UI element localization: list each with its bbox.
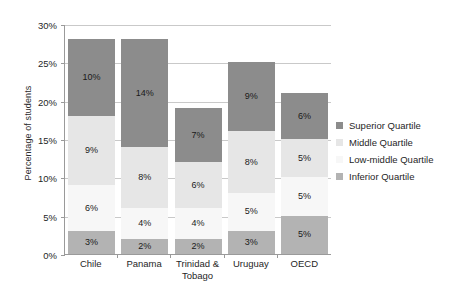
legend-label: Inferior Quartile [349,171,414,182]
legend-item[interactable]: Superior Quartile [336,117,433,134]
bar-segment-value-label: 10% [83,73,101,82]
bar-segment[interactable]: 4% [175,208,222,239]
x-axis-label-panama: Panama [117,258,170,281]
bar-stack: 2%4%8%14% [121,39,168,254]
bar-group[interactable]: 3%5%8%9% [225,25,278,254]
bar-segment-value-label: 5% [298,230,311,239]
x-axis-labels: ChilePanamaTrinidad &TobagoUruguayOECD [64,258,331,281]
bar-group[interactable]: 2%4%8%14% [118,25,171,254]
legend-swatch-icon [336,173,343,180]
x-axis-label-uruguay: Uruguay [224,258,277,281]
bars-layer: 3%6%9%10%2%4%8%14%2%4%6%7%3%5%8%9%5%5%5%… [65,25,331,254]
y-axis-tick [61,255,65,256]
bar-segment-value-label: 3% [85,238,98,247]
bar-segment[interactable]: 9% [68,116,115,185]
y-axis-tick-label: 15% [38,135,57,146]
bar-segment-value-label: 4% [191,219,204,228]
bar-segment[interactable]: 5% [281,216,328,254]
bar-segment-value-label: 2% [191,242,204,251]
bar-segment-value-label: 2% [138,242,151,251]
x-axis-label-line: Panama [117,258,170,270]
y-axis-tick-label: 0% [43,250,57,261]
bar-segment[interactable]: 14% [121,39,168,146]
plot-area: 0%5%10%15%20%25%30% 3%6%9%10%2%4%8%14%2%… [64,25,331,255]
bar-segment-value-label: 9% [245,92,258,101]
stacked-bar-chart: Percentage of students 0%5%10%15%20%25%3… [0,0,463,299]
legend-item[interactable]: Inferior Quartile [336,168,433,185]
y-axis-tick-label: 30% [38,20,57,31]
bar-segment-value-label: 6% [191,181,204,190]
bar-segment-value-label: 4% [138,219,151,228]
y-axis-tick-label: 20% [38,96,57,107]
legend-item[interactable]: Low-middle Quartile [336,151,433,168]
x-axis-label-oecd: OECD [278,258,331,281]
bar-segment[interactable]: 8% [228,131,275,192]
bar-segment-value-label: 5% [298,154,311,163]
legend-label: Low-middle Quartile [349,154,433,165]
bar-segment-value-label: 9% [85,146,98,155]
bar-segment[interactable]: 6% [175,162,222,208]
bar-segment[interactable]: 8% [121,147,168,208]
bar-segment[interactable]: 5% [281,139,328,177]
bar-segment[interactable]: 5% [281,177,328,215]
bar-stack: 3%6%9%10% [68,39,115,254]
y-axis-title: Percentage of students [23,48,33,218]
bar-segment[interactable]: 3% [228,231,275,254]
x-axis-label-line: Uruguay [224,258,277,270]
bar-segment-value-label: 7% [191,131,204,140]
legend-swatch-icon [336,139,343,146]
bar-segment-value-label: 6% [85,204,98,213]
x-axis-label-line: Tobago [171,270,224,282]
bar-segment[interactable]: 7% [175,108,222,162]
bar-stack: 2%4%6%7% [175,108,222,254]
legend-label: Superior Quartile [349,120,421,131]
y-axis-tick-label: 10% [38,173,57,184]
bar-segment-value-label: 8% [138,173,151,182]
bar-segment[interactable]: 6% [281,93,328,139]
bar-segment[interactable]: 10% [68,39,115,116]
x-axis-label-line: Trinidad & [171,258,224,270]
bar-group[interactable]: 3%6%9%10% [65,25,118,254]
bar-segment[interactable]: 4% [121,208,168,239]
bar-stack: 3%5%8%9% [228,62,275,254]
bar-segment[interactable]: 2% [175,239,222,254]
y-axis-tick-label: 5% [43,211,57,222]
x-axis-label-trinidad-tobago: Trinidad &Tobago [171,258,224,281]
bar-segment-value-label: 3% [245,238,258,247]
x-axis-label-line: Chile [64,258,117,270]
bar-segment[interactable]: 6% [68,185,115,231]
bar-segment[interactable]: 9% [228,62,275,131]
bar-segment-value-label: 5% [245,207,258,216]
legend-label: Middle Quartile [349,137,413,148]
bar-segment-value-label: 6% [298,112,311,121]
x-axis-label-line: OECD [278,258,331,270]
bar-segment-value-label: 8% [245,158,258,167]
legend-swatch-icon [336,122,343,129]
legend-item[interactable]: Middle Quartile [336,134,433,151]
bar-group[interactable]: 5%5%5%6% [278,25,331,254]
legend-swatch-icon [336,156,343,163]
bar-group[interactable]: 2%4%6%7% [171,25,224,254]
bar-segment[interactable]: 3% [68,231,115,254]
bar-segment[interactable]: 2% [121,239,168,254]
bar-segment-value-label: 5% [298,192,311,201]
bar-segment[interactable]: 5% [228,193,275,231]
chart-legend: Superior QuartileMiddle QuartileLow-midd… [336,117,433,185]
bar-stack: 5%5%5%6% [281,93,328,254]
y-axis-tick-label: 25% [38,58,57,69]
x-axis-label-chile: Chile [64,258,117,281]
bar-segment-value-label: 14% [136,89,154,98]
